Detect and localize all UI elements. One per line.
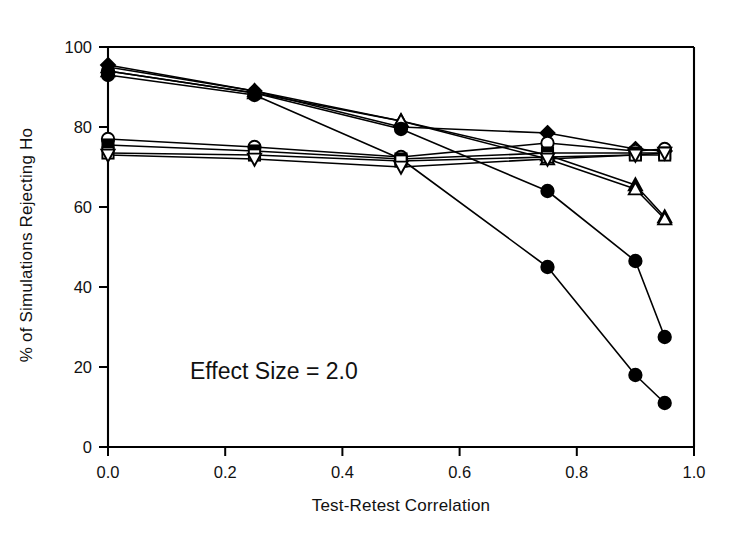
data-point-marker [541, 261, 553, 273]
y-tick-label: 40 [74, 278, 92, 296]
line-chart: 0.00.20.40.60.81.0 020406080100 Effect S… [0, 0, 739, 533]
x-tick-label: 0.6 [448, 463, 471, 481]
data-point-marker [629, 255, 641, 267]
x-tick-label: 0.0 [97, 463, 120, 481]
y-axis-title: % of Simulations Rejecting Ho [17, 128, 36, 362]
chart-figure: 0.00.20.40.60.81.0 020406080100 Effect S… [0, 0, 739, 533]
chart-annotations: Effect Size = 2.0 [190, 358, 358, 384]
data-point-marker [102, 69, 114, 81]
data-point-marker [395, 123, 407, 135]
data-point-marker [659, 397, 671, 409]
x-tick-label: 0.2 [214, 463, 237, 481]
x-tick-label: 0.4 [331, 463, 354, 481]
y-tick-label: 60 [74, 198, 92, 216]
y-tick-label: 0 [83, 438, 92, 456]
x-tick-label: 1.0 [683, 463, 706, 481]
data-point-marker [248, 89, 260, 101]
y-tick-label: 20 [74, 358, 92, 376]
y-tick-label: 80 [74, 118, 92, 136]
y-tick-label: 100 [64, 38, 92, 56]
effect-size-annotation: Effect Size = 2.0 [190, 358, 358, 384]
data-point-marker [629, 369, 641, 381]
x-tick-label: 0.8 [565, 463, 588, 481]
data-point-marker [541, 185, 553, 197]
data-point-marker [659, 331, 671, 343]
x-axis-title: Test-Retest Correlation [312, 496, 490, 515]
